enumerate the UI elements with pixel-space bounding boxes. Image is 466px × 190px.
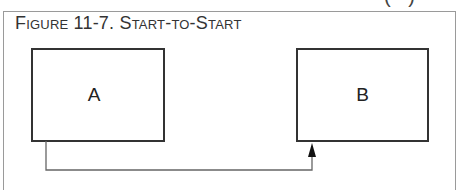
node-b: B <box>296 48 429 142</box>
node-a-label: A <box>33 84 163 106</box>
cut-off-heading-paren: ( ) <box>384 0 421 8</box>
figure-title: Figure 11-7. Start-to-Start <box>15 13 242 34</box>
node-a: A <box>31 48 165 142</box>
node-b-label: B <box>298 84 427 106</box>
